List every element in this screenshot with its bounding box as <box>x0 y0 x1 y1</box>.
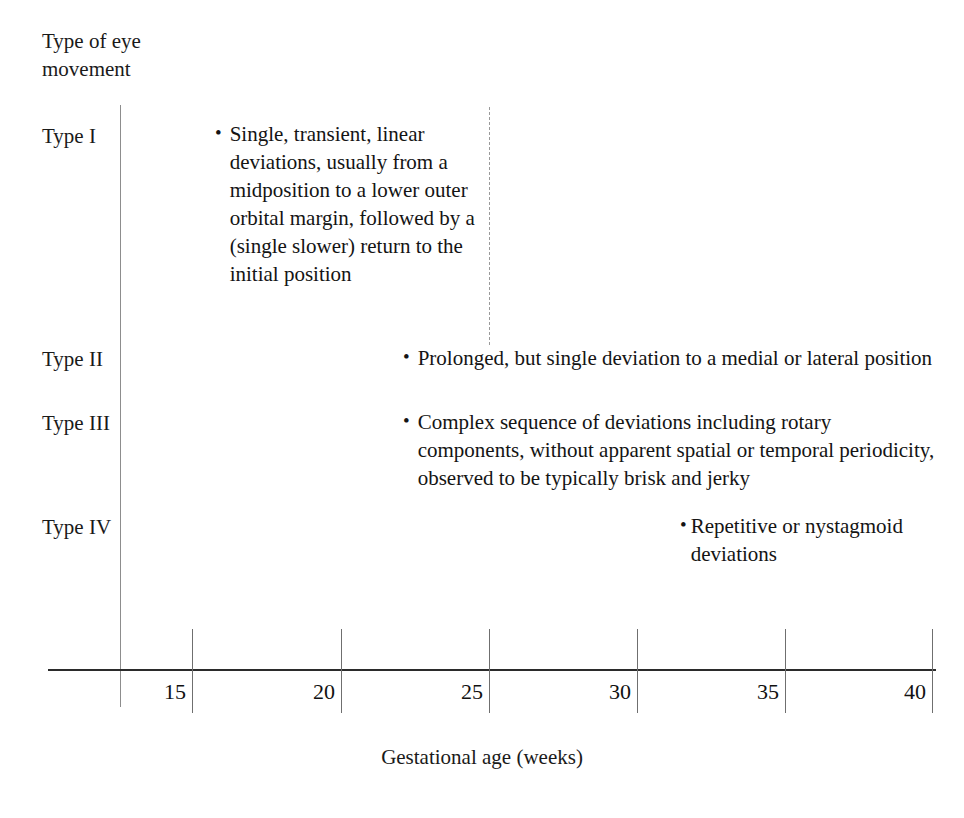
x-axis-tick-label-35: 35 <box>757 679 785 705</box>
eye-movement-type-timeline-figure: Type of eye movement Type I Type II Type… <box>0 0 964 818</box>
row-label-type-4: Type IV <box>42 515 111 540</box>
x-axis-tick-label-25: 25 <box>461 679 489 705</box>
bullet-icon: • <box>215 120 230 146</box>
y-axis-title-line-1: Type of eye <box>42 28 202 56</box>
x-axis-tick-label-20: 20 <box>313 679 341 705</box>
x-axis-tick-label-15: 15 <box>164 679 192 705</box>
x-axis-tick-label-40: 40 <box>904 679 932 705</box>
x-axis-tick-40 <box>932 629 933 713</box>
y-axis-title: Type of eye movement <box>42 28 202 83</box>
y-axis-title-line-2: movement <box>42 56 202 84</box>
x-axis-tick-label-30: 30 <box>609 679 637 705</box>
x-axis-tick-20 <box>341 629 342 713</box>
description-block-type-2: • Prolonged, but single deviation to a m… <box>403 344 933 372</box>
row-label-type-3: Type III <box>42 411 110 436</box>
dashed-divider-line <box>489 107 490 345</box>
x-axis-title: Gestational age (weeks) <box>0 745 964 770</box>
x-axis-tick-25 <box>489 629 490 713</box>
bullet-icon: • <box>680 512 691 538</box>
x-axis-tick-35 <box>785 629 786 713</box>
bullet-icon: • <box>403 408 418 434</box>
description-text-type-2: Prolonged, but single deviation to a med… <box>418 344 933 372</box>
description-block-type-3: • Complex sequence of deviations includi… <box>403 408 943 492</box>
description-block-type-1: • Single, transient, linear deviations, … <box>215 120 483 288</box>
y-axis-line <box>120 105 121 707</box>
x-axis-line <box>48 669 936 671</box>
description-block-type-4: • Repetitive or nystagmoid deviations <box>680 512 938 568</box>
row-label-type-2: Type II <box>42 347 103 372</box>
bullet-icon: • <box>403 344 418 370</box>
x-axis-tick-15 <box>192 629 193 713</box>
description-text-type-3: Complex sequence of deviations including… <box>418 408 943 492</box>
description-text-type-1: Single, transient, linear deviations, us… <box>230 120 483 288</box>
row-label-type-1: Type I <box>42 124 96 149</box>
description-text-type-4: Repetitive or nystagmoid deviations <box>691 512 938 568</box>
x-axis-tick-30 <box>637 629 638 713</box>
